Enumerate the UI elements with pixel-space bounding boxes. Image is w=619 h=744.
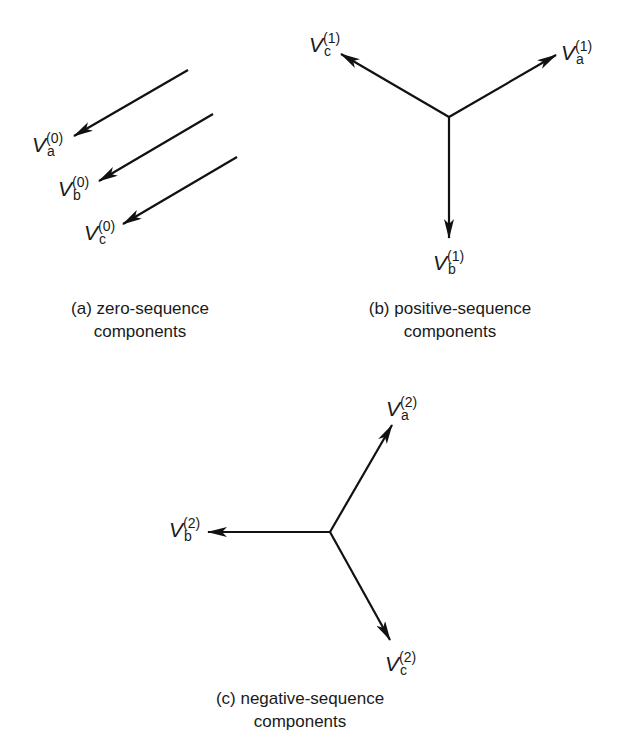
phasor-arrow-va1	[449, 55, 556, 117]
zero-sequence-phasors	[74, 70, 237, 224]
phasor-symbol: V	[386, 397, 400, 420]
caption-negative-sequence: (c) negative-sequence components	[180, 687, 420, 733]
phasor-symbol: V	[84, 221, 98, 244]
phasor-symbol: V	[433, 251, 447, 274]
caption-line-2: components	[40, 320, 240, 343]
phasor-subscript: b	[73, 188, 81, 202]
caption-line-1: (c) negative-sequence	[180, 687, 420, 710]
phasor-arrow-vc0	[123, 157, 237, 224]
label-vb1: V(1)b	[433, 252, 447, 273]
phasor-arrow-vc2	[330, 532, 390, 640]
phasor-subscript: a	[401, 408, 409, 422]
phasor-subscript: a	[576, 52, 584, 66]
phasor-arrow-va0	[74, 70, 188, 136]
phasor-symbol: V	[58, 177, 72, 200]
phasor-symbol: V	[385, 652, 399, 675]
phasor-arrow-vb0	[99, 114, 213, 181]
phasor-subscript: c	[400, 663, 407, 677]
positive-sequence-phasors	[341, 54, 556, 238]
phasor-arrow-vc1	[341, 54, 449, 117]
caption-line-2: components	[330, 320, 570, 343]
phasor-diagram-canvas	[0, 0, 619, 744]
phasor-subscript: a	[47, 144, 55, 158]
phasor-subscript: c	[324, 44, 331, 58]
phasor-subscript: b	[184, 529, 192, 543]
label-va1: V(1)a	[561, 42, 575, 63]
phasor-subscript: b	[448, 262, 456, 276]
label-vc1: V(1)c	[309, 34, 323, 55]
label-vb2: V(2)b	[169, 519, 183, 540]
phasor-symbol: V	[32, 133, 46, 156]
caption-line-1: (a) zero-sequence	[40, 297, 240, 320]
phasor-arrow-va2	[330, 425, 392, 532]
caption-line-2: components	[180, 710, 420, 733]
caption-line-1: (b) positive-sequence	[330, 297, 570, 320]
label-va0: V(0)a	[32, 134, 46, 155]
label-vc2: V(2)c	[385, 653, 399, 674]
phasor-symbol: V	[309, 33, 323, 56]
caption-zero-sequence: (a) zero-sequence components	[40, 297, 240, 343]
label-vc0: V(0)c	[84, 222, 98, 243]
phasor-subscript: c	[99, 232, 106, 246]
caption-positive-sequence: (b) positive-sequence components	[330, 297, 570, 343]
label-vb0: V(0)b	[58, 178, 72, 199]
label-va2: V(2)a	[386, 398, 400, 419]
phasor-symbol: V	[561, 41, 575, 64]
negative-sequence-phasors	[208, 425, 392, 640]
phasor-symbol: V	[169, 518, 183, 541]
